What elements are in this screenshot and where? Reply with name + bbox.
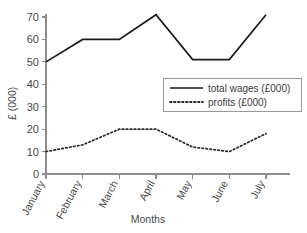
y-tick-label: 70 <box>27 11 39 23</box>
y-tick-label: 10 <box>27 146 39 158</box>
y-tick-label: 40 <box>27 78 39 90</box>
x-tick-marks <box>46 174 266 179</box>
line-chart: 0 10 20 30 40 50 60 70 £ (000) January F… <box>0 0 307 233</box>
series-total-wages-line <box>46 15 266 62</box>
x-tick-label: July <box>247 178 267 201</box>
chart-legend: total wages (£000) profits (£000) <box>164 79 302 112</box>
legend-label-profits: profits (£000) <box>208 97 267 108</box>
x-tick-label: January <box>19 178 47 217</box>
y-tick-label: 20 <box>27 123 39 135</box>
y-tick-label: 50 <box>27 56 39 68</box>
y-tick-labels: 0 10 20 30 40 50 60 70 <box>27 11 39 180</box>
x-tick-label: May <box>174 178 194 202</box>
x-tick-label: February <box>53 178 84 221</box>
x-axis-title: Months <box>131 213 165 225</box>
y-tick-label: 60 <box>27 33 39 45</box>
y-axis-title: £ (000) <box>6 87 18 120</box>
x-tick-label: April <box>136 178 156 202</box>
chart-canvas: 0 10 20 30 40 50 60 70 £ (000) January F… <box>0 0 307 233</box>
legend-label-total-wages: total wages (£000) <box>208 83 290 94</box>
series-profits-line <box>46 129 266 151</box>
x-tick-label: June <box>209 178 230 204</box>
y-tick-label: 30 <box>27 101 39 113</box>
x-tick-label: March <box>96 178 120 210</box>
